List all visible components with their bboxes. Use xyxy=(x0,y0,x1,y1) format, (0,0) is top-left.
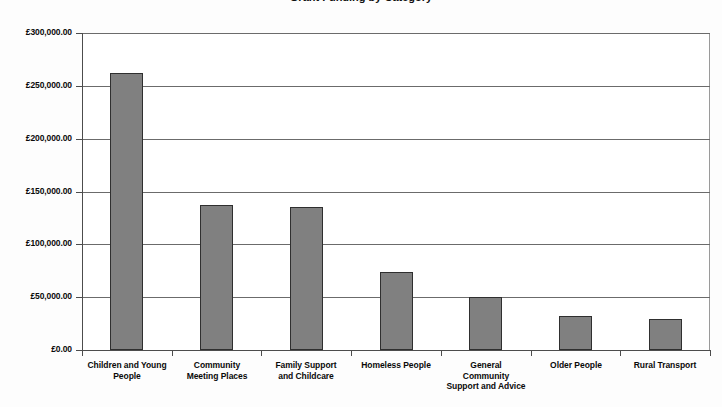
x-axis-category-label: Homeless People xyxy=(351,360,441,371)
gridline xyxy=(82,139,710,140)
category-label-line: Community xyxy=(441,371,531,382)
category-label-line: Family Support xyxy=(261,360,351,371)
bar xyxy=(200,205,233,350)
x-axis-category-label: Rural Transport xyxy=(620,360,710,371)
x-axis-tick xyxy=(82,351,83,356)
x-axis-line xyxy=(82,350,711,351)
y-axis-tick-label: £100,000.00 xyxy=(0,238,72,248)
y-axis-tick-label: £50,000.00 xyxy=(0,291,72,301)
y-axis-tick-label: £200,000.00 xyxy=(0,133,72,143)
x-axis-tick xyxy=(351,351,352,356)
category-label-line: People xyxy=(82,371,172,382)
bar xyxy=(469,297,502,350)
y-axis-tick-label: £300,000.00 xyxy=(0,27,72,37)
y-axis-tick-label: £150,000.00 xyxy=(0,186,72,196)
x-axis-tick xyxy=(261,351,262,356)
category-label-line: Community xyxy=(172,360,262,371)
y-axis-line xyxy=(82,33,83,351)
bar xyxy=(110,73,143,350)
category-label-line: Support and Advice xyxy=(441,381,531,392)
x-axis-tick xyxy=(441,351,442,356)
x-axis-category-label: GeneralCommunitySupport and Advice xyxy=(441,360,531,392)
bar xyxy=(380,272,413,350)
y-axis-tick-label: £0.00 xyxy=(0,344,72,354)
x-axis-tick xyxy=(531,351,532,356)
y-axis-tick-label: £250,000.00 xyxy=(0,80,72,90)
x-axis-category-label: Family Supportand Childcare xyxy=(261,360,351,381)
gridline xyxy=(82,86,710,87)
gridline xyxy=(82,244,710,245)
x-axis-category-label: Older People xyxy=(531,360,621,371)
category-label-line: General xyxy=(441,360,531,371)
bar xyxy=(559,316,592,350)
bar-chart: Grant Funding by Category £0.00£50,000.0… xyxy=(0,0,722,407)
x-axis-tick xyxy=(710,351,711,356)
category-label-line: and Childcare xyxy=(261,371,351,382)
category-label-line: Homeless People xyxy=(351,360,441,371)
bar xyxy=(649,319,682,350)
gridline xyxy=(82,33,710,34)
gridline xyxy=(82,192,710,193)
category-label-line: Rural Transport xyxy=(620,360,710,371)
category-label-line: Children and Young xyxy=(82,360,172,371)
x-axis-category-label: Children and YoungPeople xyxy=(82,360,172,381)
chart-title: Grant Funding by Category xyxy=(0,0,722,3)
x-axis-category-label: CommunityMeeting Places xyxy=(172,360,262,381)
x-axis-tick xyxy=(620,351,621,356)
bar xyxy=(290,207,323,350)
x-axis-tick xyxy=(172,351,173,356)
category-label-line: Older People xyxy=(531,360,621,371)
category-label-line: Meeting Places xyxy=(172,371,262,382)
